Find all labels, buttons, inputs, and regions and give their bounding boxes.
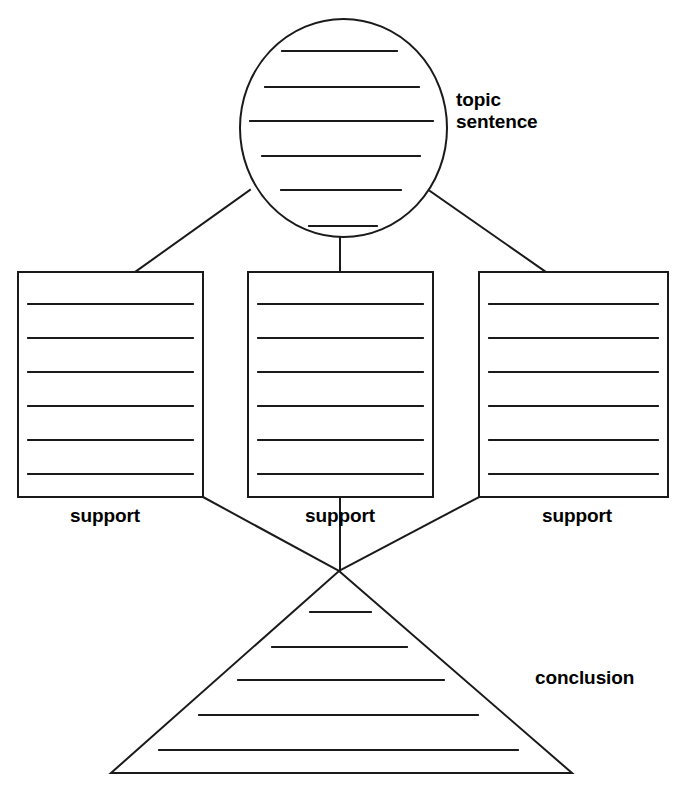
connector-circle-to-left-box xyxy=(135,190,250,272)
diagram-canvas: topic sentence support support support c… xyxy=(0,0,683,794)
support-box-right[interactable] xyxy=(479,272,668,497)
connector-circle-to-right-box xyxy=(430,191,546,272)
conclusion-label: conclusion xyxy=(535,667,634,689)
conclusion-triangle-group[interactable] xyxy=(111,571,572,773)
support-label-middle: support xyxy=(305,505,375,527)
support-label-right: support xyxy=(542,505,612,527)
topic-sentence-label: topic sentence xyxy=(456,89,538,133)
support-box-middle[interactable] xyxy=(248,272,433,497)
topic-sentence-circle-group[interactable] xyxy=(240,19,447,237)
support-box-middle-group[interactable] xyxy=(248,272,433,497)
support-box-left-group[interactable] xyxy=(18,272,203,497)
conclusion-triangle[interactable] xyxy=(111,571,572,773)
support-label-left: support xyxy=(70,505,140,527)
support-box-right-group[interactable] xyxy=(479,272,668,497)
support-box-left[interactable] xyxy=(18,272,203,497)
